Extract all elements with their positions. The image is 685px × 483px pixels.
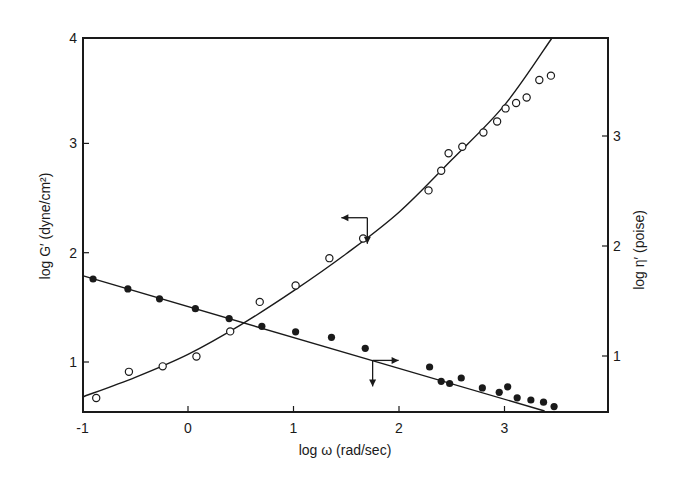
y-left-tick-label: 1 (69, 354, 77, 370)
eta-prime-point (514, 394, 521, 401)
g-prime-point (536, 76, 543, 83)
eta-prime-point (504, 383, 511, 390)
g-prime-point (193, 353, 200, 360)
y-right-tick-label: 3 (613, 128, 621, 144)
data-points (89, 72, 557, 410)
g-prime-point (159, 363, 166, 370)
y-left-tick-label: 2 (69, 245, 77, 261)
eta-prime-point (89, 275, 96, 282)
y-right-tick-label: 1 (613, 348, 621, 364)
g-prime-point (502, 105, 509, 112)
plot-border (83, 38, 608, 412)
y-axis-label-left: log G′ (dyne/cm²) (37, 173, 53, 280)
eta-prime-point (292, 328, 299, 335)
tick-labels: -101231234123 (69, 30, 621, 436)
y-axis-label-right: log η′ (poise) (631, 210, 647, 290)
eta-prime-point (496, 389, 503, 396)
fit-curves (83, 38, 552, 411)
y-right-tick-label: 2 (613, 238, 621, 254)
x-tick-label: -1 (76, 420, 89, 436)
eta-prime-point (479, 384, 486, 391)
y-left-tick-label: 3 (69, 135, 77, 151)
eta-prime-point (192, 305, 199, 312)
g-prime-point (494, 118, 501, 125)
x-axis-label: log ω (rad/sec) (299, 442, 392, 458)
g-prime-point (93, 394, 100, 401)
plot-frame (83, 38, 608, 412)
eta-prime-point (258, 323, 265, 330)
eta-prime-point (438, 378, 445, 385)
eta-prime-axis-arrow-icon-head (392, 357, 399, 364)
eta-prime-point (550, 403, 557, 410)
y-left-tick-label: 4 (69, 30, 77, 46)
g-prime-point (438, 167, 445, 174)
g-prime-point (480, 129, 487, 136)
g-prime-point (547, 72, 554, 79)
chart: -101231234123 log ω (rad/sec) log G′ (dy… (0, 0, 685, 483)
eta-prime-point (226, 315, 233, 322)
eta-prime-point (458, 374, 465, 381)
x-tick-label: 0 (184, 420, 192, 436)
eta-prime-point (540, 399, 547, 406)
g-prime-point (425, 187, 432, 194)
x-tick-label: 1 (290, 420, 298, 436)
g-prime-point (256, 298, 263, 305)
g-prime-point (523, 94, 530, 101)
eta-prime-fit-line (83, 276, 545, 411)
g-prime-point (445, 150, 452, 157)
g-prime-point (459, 143, 466, 150)
g-prime-point (227, 328, 234, 335)
g-prime-point (292, 282, 299, 289)
eta-prime-point (362, 345, 369, 352)
eta-prime-point (426, 363, 433, 370)
eta-prime-point (446, 380, 453, 387)
g-prime-point (326, 255, 333, 262)
x-tick-label: 2 (395, 420, 403, 436)
eta-prime-axis-arrow-icon-head (369, 379, 376, 386)
eta-prime-point (124, 285, 131, 292)
x-tick-label: 3 (501, 420, 509, 436)
g-prime-axis-arrow-icon-head (341, 214, 348, 221)
eta-prime-point (156, 295, 163, 302)
g-prime-fit-curve (83, 38, 552, 397)
eta-prime-point (328, 334, 335, 341)
g-prime-point (513, 99, 520, 106)
g-prime-point (125, 368, 132, 375)
eta-prime-point (527, 396, 534, 403)
